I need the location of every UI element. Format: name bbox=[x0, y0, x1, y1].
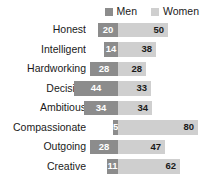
bar-track: 2847 bbox=[88, 137, 205, 157]
chart-row: Ambitious3434 bbox=[0, 98, 205, 118]
category-label: Ambitious bbox=[0, 98, 86, 118]
category-label: Honest bbox=[0, 20, 86, 40]
chart-row: Hardworking2828 bbox=[0, 59, 205, 79]
bar-segment-men[interactable]: 14 bbox=[104, 42, 118, 57]
bar-track: 1162 bbox=[88, 157, 205, 177]
bar-value-women: 38 bbox=[141, 42, 152, 57]
bar-value-women: 47 bbox=[150, 140, 161, 155]
bar-segment-men[interactable]: 28 bbox=[90, 62, 118, 77]
bar-segment-women[interactable]: 34 bbox=[118, 101, 152, 116]
bar-value-men: 11 bbox=[107, 159, 118, 174]
bar-value-women: 33 bbox=[136, 81, 147, 96]
square-swatch-icon bbox=[151, 8, 159, 16]
bar-track: 3434 bbox=[88, 98, 205, 118]
bar-segment-women[interactable]: 38 bbox=[118, 42, 156, 57]
chart-row: Creative1162 bbox=[0, 157, 205, 177]
category-label: Hardworking bbox=[0, 59, 86, 79]
bar-segment-men[interactable]: 28 bbox=[90, 140, 118, 155]
chart-row: Outgoing2847 bbox=[0, 137, 205, 157]
legend-label-men: Men bbox=[117, 6, 137, 17]
bar-value-men: 44 bbox=[74, 81, 118, 96]
legend-item-women[interactable]: Women bbox=[151, 6, 199, 17]
bar-segment-women[interactable]: 62 bbox=[118, 159, 180, 174]
bar-track: 2050 bbox=[88, 20, 205, 40]
bar-segment-women[interactable]: 47 bbox=[118, 140, 165, 155]
bar-value-men: 28 bbox=[90, 62, 118, 77]
bar-value-men: 20 bbox=[98, 23, 118, 38]
chart-legend: Men Women bbox=[0, 4, 205, 19]
category-label: Outgoing bbox=[0, 137, 86, 157]
bar-segment-women[interactable]: 28 bbox=[118, 62, 146, 77]
chart-row: Compassionate580 bbox=[0, 118, 205, 138]
chart-row: Decisive4433 bbox=[0, 79, 205, 99]
bar-value-women: 50 bbox=[153, 23, 164, 38]
bar-value-men: 34 bbox=[84, 101, 118, 116]
chart-row: Intelligent1438 bbox=[0, 40, 205, 60]
chart-row: Honest2050 bbox=[0, 20, 205, 40]
bar-segment-women[interactable]: 50 bbox=[118, 23, 168, 38]
bar-value-men: 14 bbox=[104, 42, 118, 57]
bar-track: 4433 bbox=[88, 79, 205, 99]
bar-segment-men[interactable]: 34 bbox=[84, 101, 118, 116]
bar-value-men: 28 bbox=[90, 140, 118, 155]
bar-segment-men[interactable]: 11 bbox=[107, 159, 118, 174]
bar-track: 1438 bbox=[88, 40, 205, 60]
legend-label-women: Women bbox=[163, 6, 199, 17]
category-label: Creative bbox=[0, 157, 86, 177]
bar-value-women: 28 bbox=[131, 62, 142, 77]
bar-value-women: 80 bbox=[183, 120, 194, 135]
category-label: Compassionate bbox=[0, 118, 86, 138]
legend-item-men[interactable]: Men bbox=[105, 6, 137, 17]
bar-track: 2828 bbox=[88, 59, 205, 79]
category-label: Intelligent bbox=[0, 40, 86, 60]
bar-track: 580 bbox=[88, 118, 205, 138]
bar-segment-women[interactable]: 33 bbox=[118, 81, 151, 96]
bar-value-women: 62 bbox=[165, 159, 176, 174]
square-swatch-icon bbox=[105, 8, 113, 16]
bar-value-women: 34 bbox=[137, 101, 148, 116]
diverging-bar-chart: Men Women Honest2050Intelligent1438Hardw… bbox=[0, 0, 205, 176]
plot-area: Honest2050Intelligent1438Hardworking2828… bbox=[0, 20, 205, 176]
bar-segment-women[interactable]: 80 bbox=[118, 120, 198, 135]
bar-segment-men[interactable]: 44 bbox=[74, 81, 118, 96]
bar-segment-men[interactable]: 20 bbox=[98, 23, 118, 38]
